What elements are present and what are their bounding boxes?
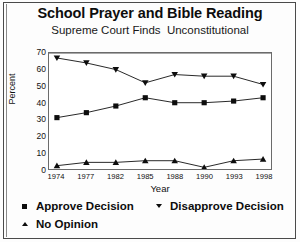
chart-page: School Prayer and Bible Reading Supreme …	[0, 0, 300, 242]
data-point-square	[54, 115, 59, 120]
chart-legend: Approve Decision Disapprove Decision No …	[14, 200, 290, 236]
legend-label-no-opinion: No Opinion	[36, 218, 98, 230]
y-axis-tick: 10	[24, 148, 46, 158]
y-axis-tick: 70	[24, 47, 46, 57]
data-point-triangle-down	[113, 67, 120, 73]
y-axis-label: Percent	[7, 54, 17, 124]
legend-label-disapprove: Disapprove Decision	[170, 200, 284, 212]
legend-item-disapprove: Disapprove Decision	[154, 200, 284, 212]
data-point-square	[231, 99, 236, 104]
legend-item-approve: Approve Decision	[20, 200, 134, 212]
legend-row-2: No Opinion	[14, 218, 290, 234]
y-axis-tick: 50	[24, 81, 46, 91]
data-point-triangle-down	[142, 80, 149, 86]
legend-row-1: Approve Decision Disapprove Decision	[14, 200, 290, 216]
chart-subtitle: Supreme Court Finds Unconstitutional	[0, 24, 300, 36]
legend-item-no-opinion: No Opinion	[20, 218, 98, 230]
triangle-up-marker-icon	[20, 219, 30, 229]
data-point-square	[260, 95, 265, 100]
x-axis-tick: 1998	[244, 172, 284, 181]
data-point-square	[202, 100, 207, 105]
y-axis-ticks: 010203040506070	[20, 52, 46, 170]
data-point-square	[172, 100, 177, 105]
triangle-down-marker-icon	[154, 201, 164, 211]
chart-title: School Prayer and Bible Reading	[0, 5, 300, 21]
legend-label-approve: Approve Decision	[36, 200, 134, 212]
y-axis-tick: 20	[24, 131, 46, 141]
x-axis-label: Year	[48, 183, 272, 194]
y-axis-tick: 40	[24, 98, 46, 108]
plot-area	[48, 52, 272, 170]
y-axis-tick: 30	[24, 114, 46, 124]
data-point-square	[143, 95, 148, 100]
data-point-triangle-down	[260, 82, 267, 88]
data-point-square	[113, 103, 118, 108]
data-point-square	[84, 110, 89, 115]
y-axis-tick: 60	[24, 64, 46, 74]
series-lines	[49, 53, 271, 169]
square-marker-icon	[20, 201, 30, 211]
